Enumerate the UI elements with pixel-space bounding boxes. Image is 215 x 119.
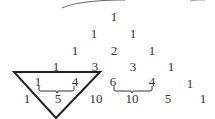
cell-r5-c1: 5 <box>55 92 62 105</box>
cell-r3-c0: 1 <box>53 60 60 73</box>
top-curve-stroke <box>62 0 125 8</box>
pascal-triangle-diagram: 1 1 1 1 2 1 1 3 3 1 1 4 6 4 1 1 5 10 10 … <box>0 0 215 119</box>
cell-r1-c0: 1 <box>91 27 98 40</box>
cell-r5-c3: 10 <box>126 92 139 105</box>
annotation-layer <box>0 0 215 119</box>
cell-r3-c1: 3 <box>92 60 99 73</box>
cell-r3-c2: 3 <box>130 60 137 73</box>
cell-r3-c3: 1 <box>168 60 175 73</box>
cell-r2-c1: 2 <box>111 44 118 57</box>
cell-r2-c2: 1 <box>149 44 156 57</box>
cell-r0-c0: 1 <box>111 10 118 23</box>
cell-r4-c0: 1 <box>35 75 42 88</box>
cell-r4-c4: 1 <box>187 77 194 90</box>
cell-r2-c0: 1 <box>72 44 79 57</box>
cell-r1-c1: 1 <box>130 27 137 40</box>
cell-r5-c0: 1 <box>24 92 31 105</box>
cell-r5-c5: 1 <box>200 92 207 105</box>
cell-r4-c3: 4 <box>149 75 156 88</box>
cell-r5-c4: 5 <box>165 92 172 105</box>
cell-r5-c2: 10 <box>90 92 103 105</box>
cell-r4-c1: 4 <box>72 75 79 88</box>
cell-r4-c2: 6 <box>110 75 117 88</box>
top-curve-stroke-right <box>190 0 205 1</box>
